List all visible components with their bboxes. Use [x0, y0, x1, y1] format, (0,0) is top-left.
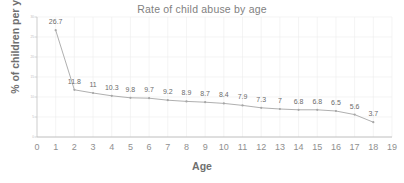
data-point-marker	[148, 97, 150, 99]
data-point-marker	[372, 121, 374, 123]
x-axis-tick-label: 6	[141, 142, 157, 152]
data-point-marker	[223, 102, 225, 104]
x-axis-tick-label: 4	[104, 142, 120, 152]
data-point-marker	[111, 95, 113, 97]
data-point-marker	[335, 110, 337, 112]
x-axis-tick-label: 18	[365, 142, 381, 152]
x-axis-tick-label: 19	[384, 142, 400, 152]
x-axis-tick-label: 12	[253, 142, 269, 152]
x-axis-tick-label: 13	[272, 142, 288, 152]
data-point-marker	[279, 108, 281, 110]
x-axis-tick-label: 9	[197, 142, 213, 152]
chart-container: Rate of child abuse by age % of children…	[0, 0, 404, 183]
data-point-marker	[73, 89, 75, 91]
data-point-marker	[129, 97, 131, 99]
data-series-line	[56, 30, 374, 122]
data-point-markers	[55, 29, 375, 123]
x-axis-tick-label: 1	[48, 142, 64, 152]
data-point-marker	[55, 29, 57, 31]
x-axis-tick-label: 16	[328, 142, 344, 152]
y-axis-tick-label: 20	[24, 55, 34, 59]
y-axis-tick-label: 0	[24, 135, 34, 139]
data-point-marker	[185, 100, 187, 102]
data-point-marker	[260, 107, 262, 109]
x-axis-tick-label: 7	[160, 142, 176, 152]
x-axis-tick-label: 2	[66, 142, 82, 152]
x-axis-tick-label: 0	[29, 142, 45, 152]
x-axis-tick-label: 5	[122, 142, 138, 152]
x-axis-tick-label: 17	[347, 142, 363, 152]
x-axis-tick-label: 15	[309, 142, 325, 152]
data-point-marker	[241, 104, 243, 106]
data-point-marker	[354, 114, 356, 116]
x-axis-tick-label: 14	[291, 142, 307, 152]
data-point-label: 3.7	[360, 110, 386, 117]
gridlines	[37, 17, 392, 137]
y-axis-tick-label: 15	[24, 75, 34, 79]
x-axis-title: Age	[0, 160, 404, 172]
data-point-marker	[92, 92, 94, 94]
y-axis-tick-label: 30	[24, 15, 34, 19]
data-point-label: 26.7	[43, 18, 69, 25]
y-axis-tick-label: 25	[24, 35, 34, 39]
x-axis-tick-label: 11	[235, 142, 251, 152]
data-point-marker	[167, 99, 169, 101]
x-axis-tick-label: 10	[216, 142, 232, 152]
data-point-marker	[204, 101, 206, 103]
data-point-label: 5.6	[342, 103, 368, 110]
y-axis-tick-label: 5	[24, 115, 34, 119]
x-axis-tick-label: 3	[85, 142, 101, 152]
data-point-marker	[297, 109, 299, 111]
y-axis-tick-label: 10	[24, 95, 34, 99]
data-point-marker	[316, 109, 318, 111]
x-axis-tick-label: 8	[178, 142, 194, 152]
